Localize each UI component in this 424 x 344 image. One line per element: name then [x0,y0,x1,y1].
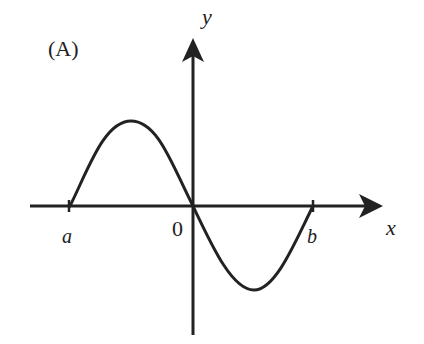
tick-b-label: b [307,225,317,247]
y-axis-label: y [200,4,212,29]
function-graph: (A) y x 0 a b [0,0,424,344]
x-axis-label: x [385,215,396,240]
tick-a-label: a [62,225,72,247]
origin-label: 0 [172,216,183,241]
panel-label: (A) [48,36,79,61]
